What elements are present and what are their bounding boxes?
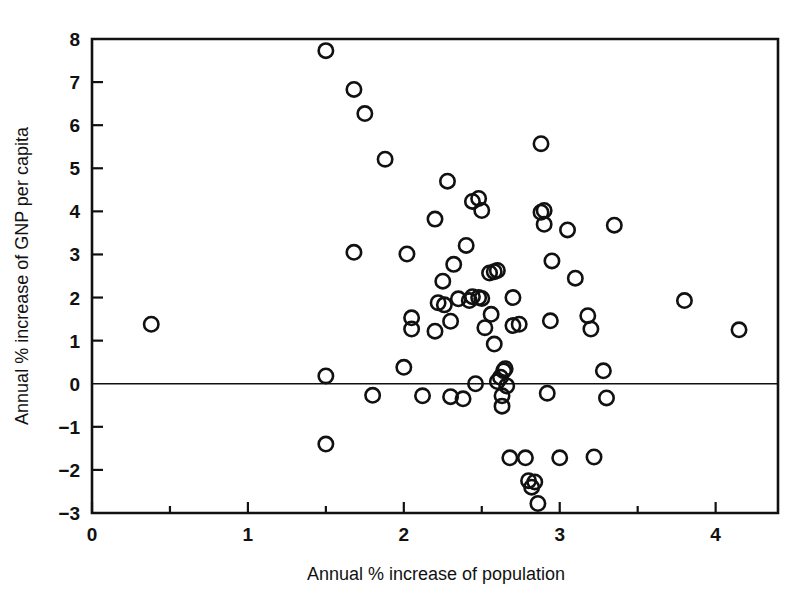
data-point: [540, 386, 554, 400]
data-point: [506, 290, 520, 304]
x-tick-label: 0: [87, 524, 98, 545]
data-point: [459, 238, 473, 252]
data-point: [677, 293, 691, 307]
plot-frame: [92, 39, 778, 513]
data-point: [487, 337, 501, 351]
y-tick-label: 6: [69, 115, 80, 136]
y-tick-label: 1: [69, 331, 80, 352]
scatter-plot-figure: 01234 −3−2−1012345678 Annual % increase …: [0, 0, 800, 603]
data-point: [484, 307, 498, 321]
data-point: [397, 360, 411, 374]
x-tick-label: 2: [399, 524, 410, 545]
x-axis-title: Annual % increase of population: [307, 564, 565, 584]
y-tick-label: −1: [58, 417, 80, 438]
data-point: [596, 364, 610, 378]
x-tick-label: 3: [554, 524, 565, 545]
y-tick-label: −3: [58, 503, 80, 524]
data-point: [415, 389, 429, 403]
data-point: [534, 137, 548, 151]
data-point: [581, 308, 595, 322]
y-axis-tick-labels: −3−2−1012345678: [58, 29, 80, 524]
data-point: [347, 245, 361, 259]
data-point: [400, 247, 414, 261]
data-point: [607, 218, 621, 232]
y-axis-ticks: [92, 82, 103, 470]
data-point: [144, 317, 158, 331]
data-point: [428, 324, 442, 338]
data-point: [378, 152, 392, 166]
y-tick-label: 4: [69, 201, 80, 222]
x-tick-label: 4: [710, 524, 721, 545]
y-tick-label: −2: [58, 460, 80, 481]
x-axis-tick-labels: 01234: [87, 524, 722, 545]
data-point: [365, 388, 379, 402]
data-point: [531, 496, 545, 510]
plot-canvas: 01234 −3−2−1012345678 Annual % increase …: [0, 0, 800, 603]
data-point: [587, 450, 601, 464]
data-point: [347, 82, 361, 96]
data-point: [428, 212, 442, 226]
x-axis-ticks: [92, 502, 716, 513]
data-point: [440, 174, 454, 188]
data-point-series: [144, 43, 746, 510]
y-tick-label: 8: [69, 29, 80, 50]
y-tick-label: 2: [69, 288, 80, 309]
data-point: [319, 437, 333, 451]
data-point: [319, 43, 333, 57]
data-point: [599, 391, 613, 405]
data-point: [503, 451, 517, 465]
y-tick-label: 3: [69, 244, 80, 265]
data-point: [568, 271, 582, 285]
data-point: [319, 369, 333, 383]
y-tick-label: 0: [69, 374, 80, 395]
data-point: [553, 451, 567, 465]
axis-frame: [92, 39, 778, 513]
data-point: [443, 314, 457, 328]
data-point: [732, 323, 746, 337]
y-axis-title: Annual % increase of GNP per capita: [12, 126, 32, 425]
data-point: [436, 274, 450, 288]
data-point: [447, 257, 461, 271]
y-tick-label: 5: [69, 158, 80, 179]
data-point: [495, 399, 509, 413]
y-tick-label: 7: [69, 72, 80, 93]
data-point: [358, 106, 372, 120]
data-point: [518, 451, 532, 465]
data-point: [560, 223, 574, 237]
data-point: [545, 254, 559, 268]
data-point: [584, 322, 598, 336]
data-point: [543, 314, 557, 328]
x-tick-label: 1: [243, 524, 254, 545]
